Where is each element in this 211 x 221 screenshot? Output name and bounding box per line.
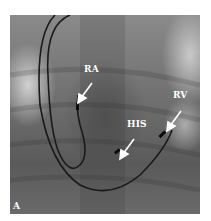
annotation-his: HIS [127,119,147,129]
panel-label: A [13,201,20,211]
annotation-ra: RA [84,64,99,74]
catheter-overlay [10,15,200,214]
annotation-rv: RV [173,90,188,100]
fluoroscopy-image: RA HIS RV A [10,15,200,214]
ra-lead [48,15,85,168]
